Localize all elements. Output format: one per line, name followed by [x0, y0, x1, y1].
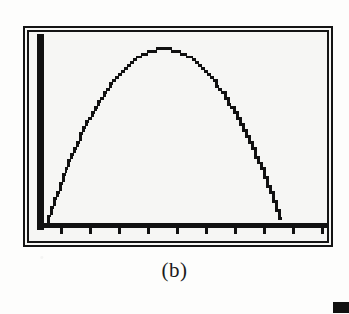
calculator-screen-inner-border: [27, 30, 329, 243]
plot-area: [29, 32, 327, 241]
calculator-screen-frame: [23, 26, 333, 247]
figure-page: (b): [0, 0, 349, 314]
figure-caption: (b): [0, 258, 349, 283]
parabola-curve: [29, 32, 327, 241]
scan-artifact-mark: [333, 302, 349, 313]
